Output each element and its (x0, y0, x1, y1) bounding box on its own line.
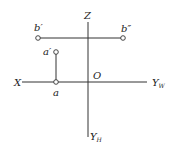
yw-axis-label: YW (152, 77, 166, 89)
z-axis-label: Z (83, 10, 92, 21)
b-prime-label: b′ (34, 22, 43, 33)
origin-label: O (93, 70, 101, 81)
point-a-prime (54, 50, 59, 55)
projection-diagram: Z X O YW YH b′ b″ a′ a (0, 0, 174, 152)
point-a (54, 80, 59, 85)
b-double-prime-label: b″ (121, 23, 131, 34)
a-prime-label: a′ (43, 46, 52, 57)
point-b-prime (36, 36, 41, 41)
point-b-double-prime (121, 36, 126, 41)
a-label: a (53, 87, 59, 98)
yh-axis-label: YH (90, 131, 103, 143)
x-axis-label: X (13, 77, 22, 88)
